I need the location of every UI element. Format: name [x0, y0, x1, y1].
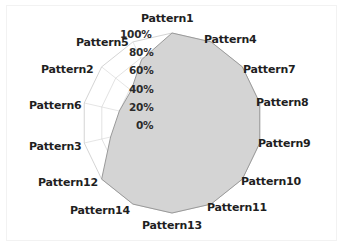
radial-tick-20pct: 20%	[129, 101, 154, 113]
category-label-pattern9: Pattern9	[258, 137, 310, 150]
category-label-pattern14: Pattern14	[70, 204, 130, 217]
category-label-pattern3: Pattern3	[29, 140, 81, 153]
category-label-pattern2: Pattern2	[41, 63, 93, 76]
category-label-pattern10: Pattern10	[241, 175, 301, 188]
category-label-pattern13: Pattern13	[142, 219, 202, 232]
radial-tick-0pct: 0%	[136, 119, 153, 131]
radar-chart-screenshot: 100%80%60%40%20%0% Pattern1Pattern4Patte…	[0, 0, 345, 248]
radial-tick-40pct: 40%	[129, 83, 154, 95]
category-label-pattern8: Pattern8	[256, 96, 308, 109]
category-label-pattern12: Pattern12	[38, 176, 98, 189]
category-label-pattern11: Pattern11	[207, 201, 267, 214]
series-area-coverage	[102, 33, 260, 213]
category-label-pattern6: Pattern6	[29, 99, 81, 112]
category-label-pattern4: Pattern4	[204, 33, 256, 46]
category-label-pattern7: Pattern7	[243, 63, 295, 76]
radial-tick-80pct: 80%	[129, 46, 154, 58]
category-label-pattern1: Pattern1	[141, 12, 193, 25]
category-label-pattern5: Pattern5	[76, 36, 128, 49]
radar-chart-plot	[0, 0, 345, 248]
radial-tick-60pct: 60%	[129, 64, 154, 76]
